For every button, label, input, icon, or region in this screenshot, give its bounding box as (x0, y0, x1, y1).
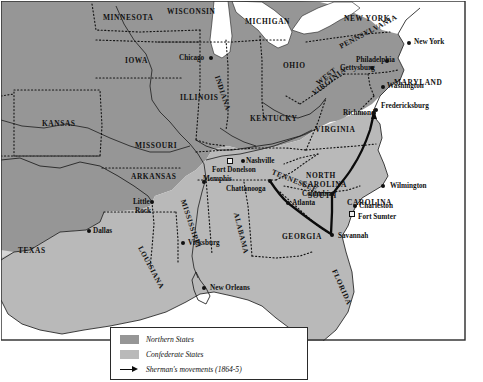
city-marker-dot (150, 200, 154, 204)
city-marker-dot (241, 159, 245, 163)
state-label: CAROLINA (302, 181, 347, 188)
city-marker-dot (286, 201, 290, 205)
state-label: OHIO (283, 62, 306, 69)
state-label: MINNESOTA (103, 14, 153, 21)
map-legend: Northern States Confederate States Sherm… (110, 327, 308, 380)
state-label: ARKANSAS (131, 173, 176, 180)
city-marker-dot (330, 233, 334, 237)
state-label: IOWA (125, 57, 148, 64)
state-label: WISCONSIN (167, 8, 216, 15)
city-marker-dot (381, 85, 385, 89)
city-marker-dot (87, 229, 91, 233)
city-label: Washington (387, 83, 424, 90)
legend-label-sherman: Sherman's movements (1864-5) (146, 365, 242, 374)
legend-label-northern: Northern States (146, 335, 194, 344)
city-label: Charleston (359, 203, 393, 210)
city-label: Fort Donelson (212, 167, 256, 174)
city-label: Richmond (343, 110, 375, 117)
state-label: TEXAS (18, 247, 46, 254)
city-marker-dot (181, 241, 185, 245)
city-marker-dot (407, 41, 411, 45)
city-label: New York (414, 39, 444, 46)
city-marker-dot (268, 179, 272, 183)
city-marker-dot (209, 56, 213, 60)
legend-swatch-confederate (120, 350, 139, 359)
city-label: Atlanta (292, 200, 315, 207)
city-label: Nashville (246, 158, 274, 165)
city-label: Fort Sumter (358, 214, 396, 221)
state-label: MICHIGAN (245, 18, 290, 25)
city-label: Fredericksburg (381, 103, 429, 110)
city-label: Savannah (338, 233, 368, 240)
state-label: VIRGINIA (315, 126, 356, 133)
city-label: Vicksburg (188, 240, 220, 247)
battle-site-marker (227, 158, 233, 164)
legend-item-confederate-states: Confederate States (120, 349, 204, 360)
state-label: KENTUCKY (250, 115, 298, 122)
city-label: Chattanooga (226, 186, 266, 193)
legend-swatch-northern (120, 335, 139, 344)
state-label: KANSAS (42, 120, 76, 127)
state-label: ILLINOIS (180, 94, 218, 101)
legend-arrow-icon (120, 365, 139, 374)
battle-site-marker (349, 211, 355, 217)
state-label: GEORGIA (282, 233, 322, 240)
legend-item-northern-states: Northern States (120, 334, 194, 345)
city-marker-dot (381, 184, 385, 188)
legend-label-confederate: Confederate States (146, 350, 204, 359)
civil-war-map: MINNESOTAWISCONSINMICHIGANNEW YORKIOWAIL… (0, 0, 483, 382)
city-label: Rock (135, 208, 151, 215)
state-label: MISSOURI (135, 142, 177, 149)
city-label: Gettysburg (340, 65, 375, 72)
city-marker-dot (353, 204, 357, 208)
city-label: Memphis (203, 176, 232, 183)
city-label: New Orleans (210, 285, 250, 292)
city-label: Chicago (179, 55, 204, 62)
legend-item-sherman-movements: Sherman's movements (1864-5) (120, 364, 242, 375)
state-label: NORTH (306, 172, 336, 179)
city-label: Wilmington (390, 183, 427, 190)
city-label: Columbia (302, 191, 332, 198)
city-label: Little (133, 199, 150, 206)
city-label: Dallas (93, 228, 112, 235)
city-marker-dot (202, 286, 206, 290)
